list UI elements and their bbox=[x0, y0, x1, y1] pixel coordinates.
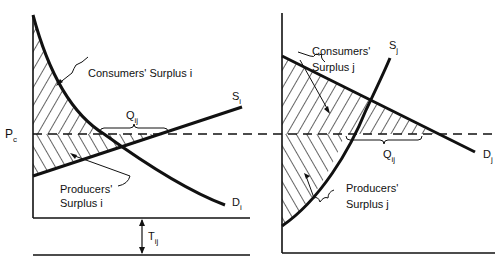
demand-i-label: Di bbox=[232, 196, 242, 210]
quantity-brace-i bbox=[100, 124, 168, 132]
quantity-qij-right-label: Qij bbox=[383, 148, 395, 162]
spatial-equilibrium-diagram bbox=[0, 0, 502, 267]
supply-i-label: Si bbox=[232, 90, 241, 104]
right-panel bbox=[270, 0, 502, 267]
supply-j-label: Sj bbox=[389, 39, 398, 53]
demand-j-label: Dj bbox=[483, 148, 493, 162]
quantity-brace-j bbox=[346, 136, 422, 144]
quantity-qij-left-label: Qij bbox=[126, 109, 138, 123]
transport-cost-tij-label: Tij bbox=[148, 230, 158, 244]
producers-surplus-j-label: Producers'Surplus j bbox=[346, 182, 398, 210]
consumers-surplus-i-label: Consumers' Surplus i bbox=[88, 67, 192, 79]
producers-surplus-i-label: Producers'Surplus i bbox=[60, 183, 112, 209]
consumers-surplus-j-label: Consumers'Surplus j bbox=[312, 45, 370, 73]
price-pc-label: Pc bbox=[5, 128, 17, 142]
